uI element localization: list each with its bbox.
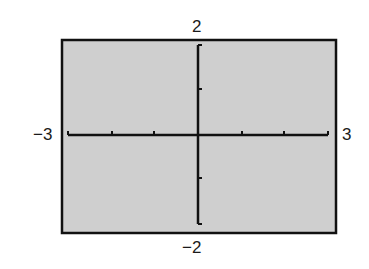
calculator-viewing-window bbox=[0, 0, 369, 269]
xmax-label: 3 bbox=[342, 126, 351, 143]
ymin-label: −2 bbox=[182, 239, 201, 256]
xmin-label: −3 bbox=[33, 126, 52, 143]
ymax-label: 2 bbox=[192, 18, 201, 35]
